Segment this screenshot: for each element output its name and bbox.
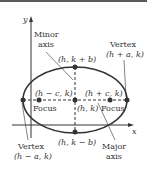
focus-right-label: Focus — [101, 104, 125, 113]
covertex-bottom-point — [73, 130, 78, 135]
focus-left-coord: (h − c, k) — [35, 89, 73, 98]
ellipse-diagram: y x Minor axis Vertex (h + a, k) (h, k +… — [0, 0, 147, 169]
minor-axis-label-1: Minor — [34, 30, 59, 39]
covertex-top-point — [73, 65, 78, 70]
focus-right-coord: (h + c, k) — [85, 89, 123, 98]
vertex-right-title: Vertex — [109, 40, 137, 49]
vertex-right-coord: (h + a, k) — [106, 50, 144, 59]
vertex-left-title: Vertex — [17, 142, 45, 151]
covertex-bottom-label: (h, k − b) — [58, 138, 96, 147]
major-axis-label-1: Major — [102, 142, 126, 151]
y-axis-arrow-icon — [29, 16, 33, 22]
y-axis-label: y — [22, 15, 28, 24]
vertex-right-point — [125, 98, 130, 103]
minor-axis-label-2: axis — [38, 40, 54, 49]
focus-right-point — [108, 98, 113, 103]
major-axis-label-2: axis — [106, 152, 122, 161]
vertex-left-coord: (h − a, k) — [14, 152, 52, 161]
x-axis-label: x — [132, 127, 137, 136]
vertex-left-point — [21, 98, 26, 103]
center-label: (h, k) — [77, 104, 98, 113]
focus-left-label: Focus — [33, 104, 57, 113]
center-point — [73, 98, 78, 103]
covertex-top-label: (h, k + b) — [58, 55, 96, 64]
focus-left-point — [37, 98, 42, 103]
